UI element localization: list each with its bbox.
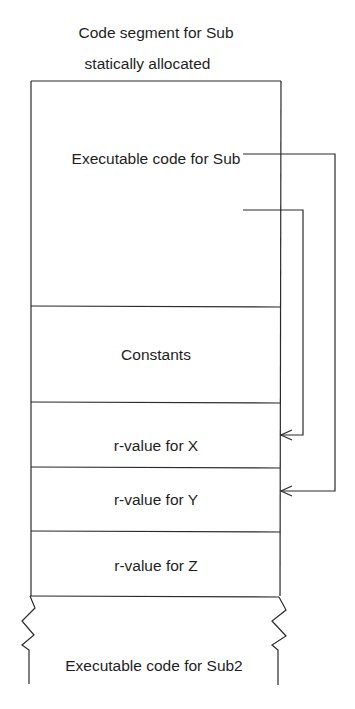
segment-label-exec-sub2: Executable code for Sub2 [29,657,279,675]
segment-label-rvalue-x: r-value for X [31,437,281,455]
divider-y-z [31,531,280,532]
divider-constants-x [31,402,280,403]
arrow-to-rvalue-x [243,210,303,435]
divider-x-y [31,467,280,468]
divider-exec-constants [31,306,280,307]
segment-label-rvalue-y: r-value for Y [31,491,281,509]
segment-label-rvalue-z: r-value for Z [31,557,281,575]
divider-z-sub2 [30,596,279,597]
segment-label-exec-sub: Executable code for Sub [31,150,281,168]
segment-label-constants: Constants [31,346,281,364]
